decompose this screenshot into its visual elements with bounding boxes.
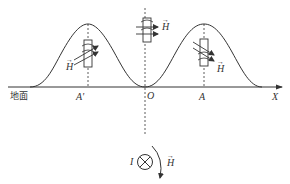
field-label-left: → H xyxy=(66,62,73,72)
field-label-right: → H xyxy=(217,64,224,74)
current-into-page-icon xyxy=(138,155,153,170)
field-label-center: → H xyxy=(162,22,169,32)
ground-label: 地面 xyxy=(10,92,28,101)
point-label-a-prime: A' xyxy=(76,92,84,102)
point-label-origin: O xyxy=(147,91,154,101)
axis-label-x: X xyxy=(272,92,278,102)
coil-right-icon xyxy=(193,39,214,66)
field-label-bottom: → H xyxy=(167,158,174,168)
coil-center-icon xyxy=(136,18,158,42)
coil-left-icon xyxy=(74,40,98,67)
point-label-a: A xyxy=(199,92,205,102)
field-direction-arrow-icon xyxy=(152,146,161,178)
diagram-canvas xyxy=(0,0,290,184)
current-label: I xyxy=(130,157,133,167)
